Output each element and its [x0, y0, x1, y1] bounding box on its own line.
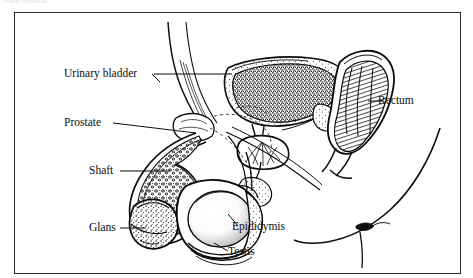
abdominal-wall — [168, 22, 217, 141]
leader-urinary-bladder-tick — [152, 74, 160, 82]
label-glans: Glans — [89, 222, 116, 234]
label-shaft: Shaft — [89, 165, 113, 177]
label-prostate: Prostate — [64, 117, 101, 129]
label-rectum: Rectum — [378, 95, 414, 107]
anatomical-illustration — [0, 0, 473, 278]
label-epididymis: Epididymis — [232, 221, 285, 233]
glans-penis — [129, 199, 178, 248]
label-testis: Testis — [228, 246, 255, 258]
figure-page: Male Genital — [0, 0, 473, 278]
buttock-outline — [294, 128, 440, 268]
label-urinary-bladder: Urinary bladder — [64, 68, 137, 80]
